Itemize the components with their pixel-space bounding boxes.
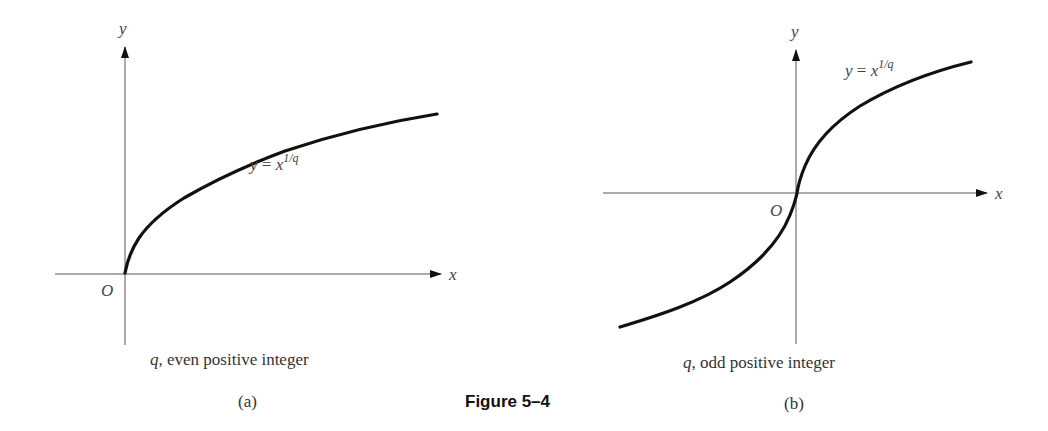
curve-label-exp: 1/q xyxy=(283,151,298,165)
curve-root-even xyxy=(125,114,437,273)
figure-5-4: y x O y = x1/q q, even positive integer … xyxy=(0,0,1048,431)
y-axis-label: y xyxy=(117,19,127,38)
caption-text: , even positive integer xyxy=(159,350,309,369)
curve-label-eq: = xyxy=(258,155,276,174)
caption-a: q, even positive integer xyxy=(150,350,309,369)
curve-label-exp: 1/q xyxy=(878,57,893,71)
x-axis-label: x xyxy=(448,265,457,284)
panel-b: y x O y = x1/q q, odd positive integer (… xyxy=(603,22,1003,413)
curve-label-eq: = xyxy=(853,61,871,80)
curve-label-lhs: y xyxy=(843,61,853,80)
figure-label: Figure 5–4 xyxy=(465,392,551,411)
sublabel-a: (a) xyxy=(238,392,257,411)
curve-label: y = x1/q xyxy=(248,151,299,174)
y-axis-label: y xyxy=(789,22,799,41)
origin-label: O xyxy=(770,201,782,220)
caption-text: , odd positive integer xyxy=(692,353,836,372)
sublabel-b: (b) xyxy=(784,394,804,413)
x-axis-label: x xyxy=(994,184,1003,203)
origin-label: O xyxy=(101,281,113,300)
caption-b: q, odd positive integer xyxy=(683,353,835,372)
panel-a: y x O y = x1/q q, even positive integer … xyxy=(55,19,457,411)
curve-label: y = x1/q xyxy=(843,57,894,80)
curve-label-lhs: y xyxy=(248,155,258,174)
